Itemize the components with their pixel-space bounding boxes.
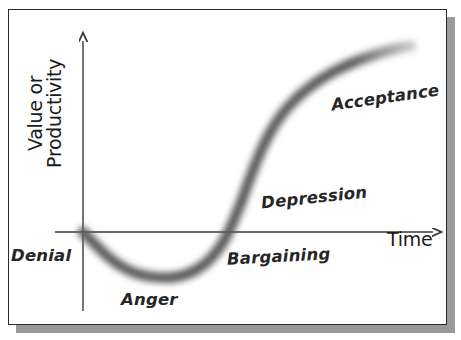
y-axis-label-line2: Productivity bbox=[45, 38, 64, 188]
curve-path bbox=[83, 46, 411, 278]
annotation-anger: Anger bbox=[121, 290, 178, 309]
annotation-denial: Denial bbox=[11, 246, 71, 265]
x-axis-label: Time bbox=[387, 228, 432, 250]
plot-area: Value or Productivity Time Denial Anger … bbox=[9, 10, 446, 324]
change-curve-figure: Value or Productivity Time Denial Anger … bbox=[0, 0, 461, 340]
change-curve bbox=[9, 10, 447, 325]
y-axis-label: Value or Productivity bbox=[26, 38, 65, 188]
chart-frame: Value or Productivity Time Denial Anger … bbox=[8, 9, 447, 325]
